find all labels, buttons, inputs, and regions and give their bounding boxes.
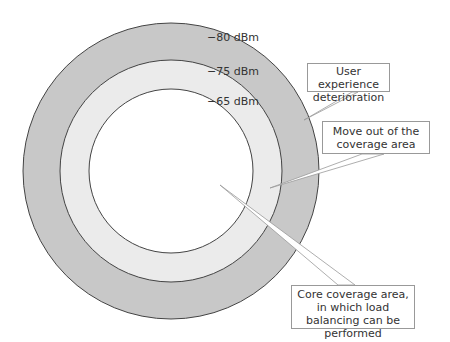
ring-label-75: −75 dBm: [207, 65, 259, 78]
callout-deterioration: User experience deterioration: [307, 63, 390, 92]
callout-core: Core coverage area, in which load balanc…: [291, 285, 415, 329]
ring-65dbm: [89, 89, 253, 253]
callout-move-out: Move out of the coverage area: [322, 121, 430, 154]
ring-label-65: −65 dBm: [207, 95, 259, 108]
ring-label-80: −80 dBm: [207, 31, 259, 44]
